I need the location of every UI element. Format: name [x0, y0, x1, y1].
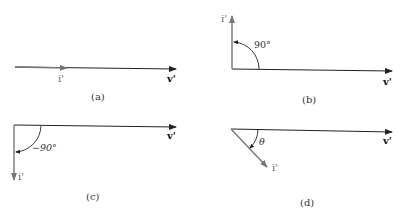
panel-a: i' v' (a)	[15, 67, 176, 102]
angle-label: −90°	[32, 142, 57, 153]
angle-arc	[250, 129, 258, 148]
voltage-phasor-line	[232, 69, 392, 71]
voltage-label: v'	[382, 135, 392, 146]
current-phasor-line	[15, 67, 67, 68]
panel-d: θ i' v' (d)	[231, 129, 392, 208]
panel-caption: (c)	[86, 191, 100, 202]
voltage-label: v'	[166, 130, 176, 141]
angle-label: 90°	[254, 39, 271, 50]
voltage-label: v'	[166, 73, 176, 84]
panel-caption: (d)	[300, 197, 314, 208]
voltage-label: v'	[382, 76, 392, 87]
voltage-phasor-line	[231, 129, 392, 132]
current-phasor-line	[231, 129, 267, 167]
current-label: i'	[18, 171, 24, 182]
panel-c: −90° i' v' (c)	[14, 125, 176, 202]
phasor-diagram: i' v' (a) i' 90° v' (b) −90° i' v' (c) θ…	[0, 0, 407, 213]
current-label: i'	[221, 13, 227, 24]
current-label: i'	[272, 162, 278, 173]
current-label: i'	[58, 73, 64, 84]
voltage-phasor-line	[14, 125, 176, 127]
angle-label: θ	[259, 136, 265, 147]
panel-caption: (b)	[302, 94, 316, 105]
panel-b: i' 90° v' (b)	[221, 13, 392, 105]
panel-caption: (a)	[91, 91, 105, 102]
